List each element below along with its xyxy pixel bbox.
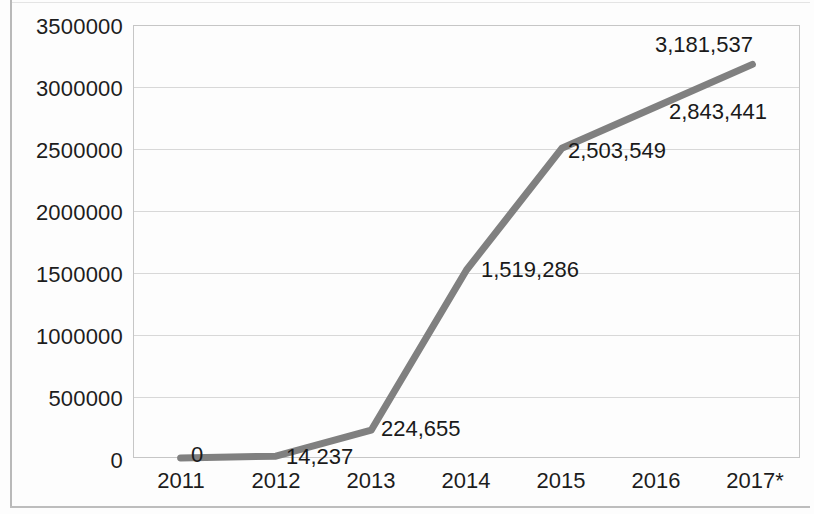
y-axis-tick-3000000: 3000000 <box>36 78 123 100</box>
y-axis-tick-2000000: 2000000 <box>36 202 123 224</box>
x-axis-tick-2017: 2017* <box>726 470 784 492</box>
frame-top-border <box>10 2 810 3</box>
data-label-2012: 14,237 <box>286 446 353 468</box>
data-label-2011: 0 <box>191 444 203 466</box>
y-axis-tick-500000: 500000 <box>48 388 123 410</box>
gridline-2000000 <box>134 211 799 212</box>
y-axis-tick-3500000: 3500000 <box>36 16 123 38</box>
data-label-2013: 224,655 <box>381 418 461 440</box>
gridline-2500000 <box>134 149 799 150</box>
x-axis-tick-2011: 2011 <box>157 470 204 492</box>
x-axis-tick-2014: 2014 <box>442 470 491 492</box>
data-label-2016: 2,843,441 <box>669 101 767 123</box>
frame-bottom-border <box>10 506 810 508</box>
x-axis-tick-2013: 2013 <box>347 470 396 492</box>
x-axis-tick-2012: 2012 <box>252 470 301 492</box>
y-axis: 3500000 3000000 2500000 2000000 1500000 … <box>0 0 123 514</box>
x-axis-tick-2016: 2016 <box>632 470 681 492</box>
data-label-2017: 3,181,537 <box>655 34 753 56</box>
y-axis-tick-1500000: 1500000 <box>36 264 123 286</box>
y-axis-tick-2500000: 2500000 <box>36 140 123 162</box>
gridline-3000000 <box>134 87 799 88</box>
gridline-1500000 <box>134 273 799 274</box>
x-axis-tick-2015: 2015 <box>537 470 586 492</box>
data-label-2015: 2,503,549 <box>568 140 666 162</box>
y-axis-tick-0: 0 <box>111 450 123 472</box>
y-axis-tick-1000000: 1000000 <box>36 326 123 348</box>
gridline-500000 <box>134 397 799 398</box>
data-label-2014: 1,519,286 <box>481 259 579 281</box>
line-chart: 3500000 3000000 2500000 2000000 1500000 … <box>0 0 814 514</box>
plot-area <box>133 25 800 458</box>
gridline-1000000 <box>134 335 799 336</box>
x-axis: 2011 2012 2013 2014 2015 2016 2017* <box>133 470 800 504</box>
